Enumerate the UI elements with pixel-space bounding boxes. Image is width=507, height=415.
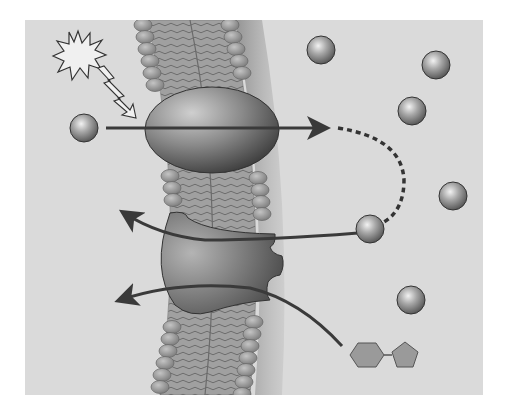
ion-sphere [70, 114, 98, 142]
ion-sphere [422, 51, 450, 79]
hexagon-ring [350, 343, 384, 367]
ion-sphere [397, 286, 425, 314]
ion-sphere [439, 182, 467, 210]
channel-protein [145, 87, 279, 173]
ion-sphere [307, 36, 335, 64]
ion-sphere [356, 215, 384, 243]
ion-sphere [398, 97, 426, 125]
membrane-diagram [0, 0, 507, 415]
